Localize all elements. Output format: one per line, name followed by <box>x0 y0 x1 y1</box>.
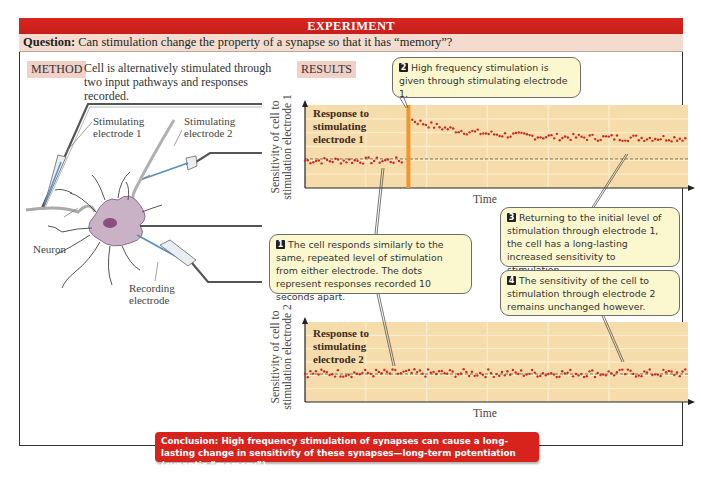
step-2-icon: 2 <box>399 63 408 72</box>
step-4-icon: 4 <box>507 276 516 285</box>
callout-4-text: The sensitivity of the cell to stimulati… <box>507 275 655 312</box>
callout-1-text: The cell responds similarly to the same,… <box>276 239 444 302</box>
callout-2: 2High frequency stimulation is given thr… <box>392 57 581 98</box>
step-1-icon: 1 <box>276 240 285 249</box>
step-3-icon: 3 <box>507 213 516 222</box>
callout-1: 1The cell responds similarly to the same… <box>269 234 472 294</box>
callout-4: 4The sensitivity of the cell to stimulat… <box>500 270 680 316</box>
callout-2-text: High frequency stimulation is given thro… <box>399 62 567 99</box>
conclusion-box: Conclusion: High frequency stimulation o… <box>155 432 539 462</box>
callout-3: 3Returning to the initial level of stimu… <box>500 207 680 267</box>
callout-3-text: Returning to the initial level of stimul… <box>507 212 661 275</box>
